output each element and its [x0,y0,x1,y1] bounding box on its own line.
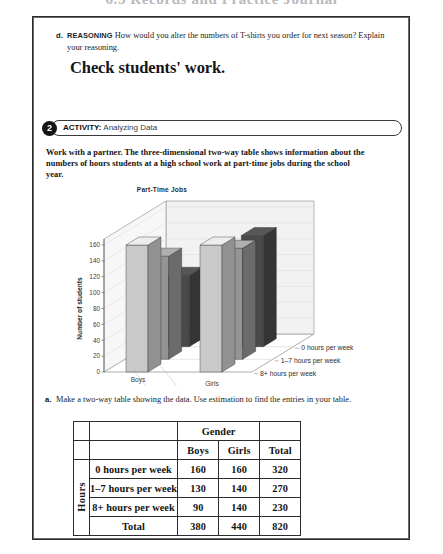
y-axis-label: Number of students [76,277,83,340]
row-header: Total [90,517,178,536]
y-axis-tick: 120 [89,273,100,280]
part-d-row: d. REASONING How would you alter the num… [56,30,396,53]
y-axis-tick: 0 [96,368,100,375]
y-axis-tick: 100 [89,289,100,296]
activity-subject: Analyzing Data [102,123,158,132]
part-a-row: a. Make a two-way table showing the data… [45,394,395,405]
activity-label: ACTIVITY: [63,123,102,132]
part-d-letter: d. [56,30,67,40]
table-spacer-cell [74,422,90,441]
table-row: BoysGirlsTotal [74,441,301,460]
depth-axis-category-label: 1–7 hours per week [281,357,341,365]
activity-directions: Work with a partner. The three-dimension… [46,147,366,181]
exercise-part-d: d. REASONING How would you alter the num… [56,30,396,78]
column-header: Boys [178,441,219,460]
chart-bar [126,237,161,372]
gender-header: Gender [178,422,260,441]
table-cell-girls: 440 [219,517,260,536]
row-header: 8+ hours per week [90,498,178,517]
exercise-part-a: a. Make a two-way table showing the data… [45,394,395,405]
table-row: Hours0 hours per week160160320 [74,460,301,479]
x-axis-category-label: Boys [131,376,146,384]
y-axis-tick: 140 [89,257,100,264]
table-cell-boys: 380 [178,517,219,536]
table-cell-total: 270 [260,479,301,498]
row-header: 1–7 hours per week [90,479,178,498]
running-head: 6.3 Records and Practice Journal [0,0,443,5]
activity-banner: 2 ACTIVITY: Analyzing Data [42,120,402,137]
table-cell-girls: 140 [219,479,260,498]
hours-axis-label: Hours [74,460,90,536]
depth-axis-category-label: 0 hours per week [301,344,354,352]
part-d-text: REASONING How would you alter the number… [67,30,396,53]
table-cell-total: 320 [260,460,301,479]
table-row: 1–7 hours per week130140270 [74,479,301,498]
column-header: Total [260,441,301,460]
two-way-table-wrapper: GenderBoysGirlsTotalHours0 hours per wee… [73,421,301,536]
column-header: Girls [219,441,260,460]
y-axis-tick: 160 [89,241,100,248]
table-cell-boys: 90 [178,498,219,517]
two-way-table: GenderBoysGirlsTotalHours0 hours per wee… [73,421,301,536]
table-cell-girls: 140 [219,498,260,517]
table-cell-boys: 160 [178,460,219,479]
part-a-letter: a. [45,394,56,404]
activity-title: ACTIVITY: Analyzing Data [63,123,157,132]
table-row: 8+ hours per week90140230 [74,498,301,517]
hours-axis-label-text: Hours [76,482,87,512]
depth-axis-category-label: 8+ hours per week [260,370,317,378]
table-cell-total: 820 [260,517,301,536]
part-d-question: How would you alter the numbers of T-shi… [67,31,384,52]
chart-canvas: 020406080100120140160Number of studentsB… [42,186,372,386]
table-spacer-cell [260,422,301,441]
row-header: 0 hours per week [90,460,178,479]
part-time-jobs-chart: Part-Time Jobs 020406080100120140160Numb… [42,186,372,386]
table-spacer-cell [74,441,90,460]
table-cell-boys: 130 [178,479,219,498]
y-axis-tick: 80 [93,305,101,312]
y-axis-tick: 60 [93,321,101,328]
part-a-text: Make a two-way table showing the data. U… [56,394,351,405]
reasoning-tag: REASONING [67,31,113,40]
chart-bar [200,237,235,372]
activity-number-badge: 2 [42,121,57,136]
part-d-answer: Check students' work. [70,58,396,78]
table-cell-total: 230 [260,498,301,517]
table-spacer-cell [90,422,178,441]
table-row: Gender [74,422,301,441]
table-row: Total380440820 [74,517,301,536]
y-axis-tick: 20 [93,352,101,359]
table-spacer-cell [90,441,178,460]
x-axis-category-label: Girls [205,380,219,387]
table-cell-girls: 160 [219,460,260,479]
y-axis-tick: 40 [93,337,101,344]
